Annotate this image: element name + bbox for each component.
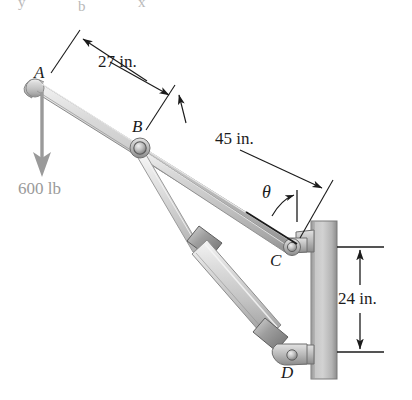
dimension-label-24in: 24 in. — [338, 290, 377, 307]
dimension-label-45in: 45 in. — [215, 130, 254, 147]
bracket-d — [272, 344, 314, 365]
point-label-c: C — [270, 252, 281, 269]
dimension-27in — [51, 30, 175, 130]
point-label-b: B — [132, 118, 142, 135]
point-label-a: A — [34, 64, 44, 81]
load-label-600lb: 600 lb — [18, 180, 61, 197]
wall — [311, 221, 337, 379]
dimension-label-27in: 27 in. — [98, 53, 137, 70]
top-fragment-right: x — [138, 0, 146, 11]
pin-joint-b — [130, 138, 150, 158]
angle-label-theta: θ — [262, 183, 271, 201]
dimension-45in — [179, 95, 333, 238]
mechanism-diagram — [0, 0, 412, 400]
figure-page: A B C D 27 in. 45 in. 24 in. θ 600 lb y … — [0, 0, 412, 400]
point-label-d: D — [281, 364, 293, 381]
top-fragment-mid: b — [78, 0, 86, 15]
load-arrow-600lb — [33, 92, 51, 177]
top-fragment-left: y — [18, 0, 26, 11]
